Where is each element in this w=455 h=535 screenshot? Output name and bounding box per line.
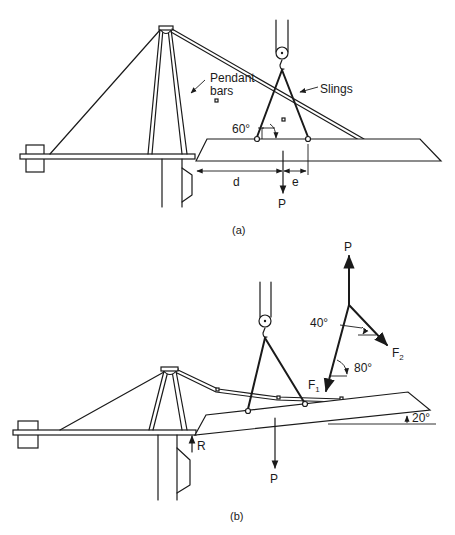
caption-b: (b) (230, 510, 243, 522)
panel-a: Pendant bars Slings 60° d e P (a) (20, 20, 441, 236)
label-pendant: Pendant (210, 71, 255, 85)
caption-a: (a) (232, 224, 245, 236)
label-bars: bars (210, 84, 233, 98)
crane-boom-figure: Pendant bars Slings 60° d e P (a) (0, 0, 455, 535)
slings-leader (300, 87, 318, 92)
label-f1: F1 (308, 378, 320, 394)
label-angle-60: 60° (232, 122, 250, 136)
back-stay-b (60, 372, 164, 430)
hook-block-b (259, 282, 271, 337)
figure-canvas: Pendant bars Slings 60° d e P (a) (0, 0, 455, 535)
a-frame-tower-a (148, 26, 187, 154)
label-fbd-p: P (344, 240, 352, 254)
pendant-leader (191, 80, 205, 93)
label-dim-e: e (292, 175, 299, 189)
panel-b: R P 20° P 40° 80° F1 F2 (b) (13, 240, 436, 522)
slings-b (246, 338, 308, 414)
label-angle-80: 80° (354, 361, 372, 375)
fbd-f2-arrow (349, 305, 387, 345)
boom-arm-a (20, 154, 195, 159)
fbd-f1-arrow (326, 305, 349, 391)
label-slings: Slings (320, 82, 353, 96)
mast-a (162, 159, 192, 207)
label-reaction-r: R (197, 439, 206, 453)
label-load-p-b: P (270, 472, 278, 486)
back-stay-a (50, 30, 160, 154)
mast-b (158, 435, 190, 500)
label-load-p-a: P (278, 197, 286, 211)
hook-block-a (276, 20, 288, 69)
label-angle-40: 40° (310, 316, 328, 330)
boom-arm-b (13, 430, 196, 435)
jib-a (196, 139, 441, 161)
label-dim-d: d (233, 175, 240, 189)
a-frame-tower-b (149, 367, 187, 430)
label-tilt-20: 20° (412, 411, 430, 425)
label-f2: F2 (392, 346, 404, 362)
